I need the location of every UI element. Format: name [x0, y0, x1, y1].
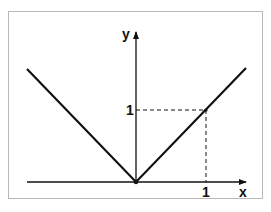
point-1-1 [204, 108, 207, 111]
y-axis-label: y [122, 26, 130, 42]
y-tick-1: 1 [126, 102, 134, 118]
x-axis-label: x [239, 184, 247, 200]
x-tick-1: 1 [202, 184, 210, 200]
chart-plot-area: y x 1 1 [0, 0, 271, 212]
origin-point [134, 180, 138, 184]
